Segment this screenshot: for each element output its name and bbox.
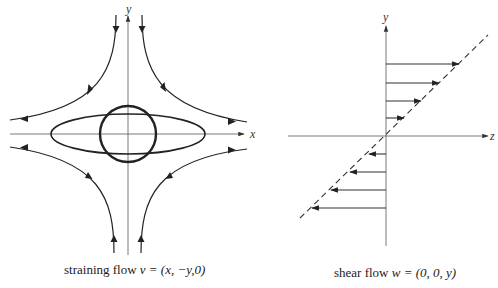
- shear-flow-caption: shear flow w = (0, 0, y): [334, 265, 456, 281]
- figure-canvas: x y: [0, 0, 498, 288]
- streamline-top-left: [10, 15, 116, 120]
- streamline-top-right: [142, 15, 247, 122]
- velocity-profile-line: [300, 35, 488, 218]
- x-axis-label: x: [249, 127, 256, 141]
- shear-flow-panel: z y: [288, 10, 495, 246]
- velocity-arrows-positive: [386, 64, 459, 118]
- straining-flow-panel: x y: [10, 2, 256, 255]
- shear-flow-caption-text: shear flow: [334, 265, 389, 280]
- streamline-bottom-right: [141, 149, 247, 253]
- straining-flow-caption: straining flow v = (x, −y,0): [64, 262, 205, 278]
- shear-flow-formula: w = (0, 0, y): [392, 265, 456, 280]
- streamline-bottom-left: [10, 147, 114, 253]
- straining-flow-formula: v = (x, −y,0): [140, 262, 206, 277]
- shear-y-axis-label: y: [382, 10, 389, 24]
- straining-flow-caption-text: straining flow: [64, 262, 137, 277]
- y-axis-label: y: [125, 2, 132, 16]
- z-axis-label: z: [489, 129, 495, 143]
- velocity-arrows-negative: [312, 154, 386, 208]
